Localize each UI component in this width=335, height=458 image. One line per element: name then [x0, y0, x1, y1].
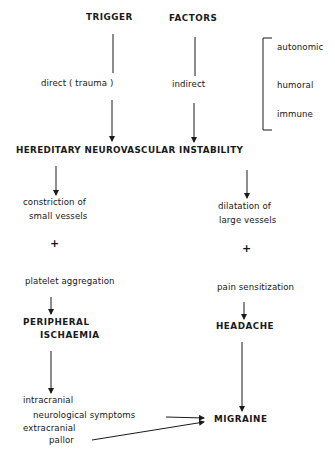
central-node-instability: HEREDITARY NEUROVASCULAR INSTABILITY — [16, 146, 243, 155]
constriction-line2: small vessels — [29, 212, 87, 221]
factor-immune: immune — [277, 110, 313, 119]
arrow-neuro-to-migraine — [166, 417, 204, 418]
dilatation-line1: dilatation of — [218, 202, 271, 211]
factor-autonomic: autonomic — [277, 43, 323, 52]
peripheral-label: PERIPHERAL — [23, 318, 90, 327]
factor-humoral: humoral — [277, 81, 313, 90]
headache-label: HEADACHE — [216, 322, 274, 331]
neurological-symptoms-label: neurological symptoms — [33, 411, 135, 420]
dilatation-line2: large vessels — [219, 216, 276, 225]
pallor-label: pallor — [49, 436, 74, 445]
extracranial-label: extracranial — [23, 424, 76, 433]
left-plus: + — [50, 238, 59, 249]
right-plus: + — [242, 243, 251, 254]
intracranial-label: intracranial — [23, 396, 73, 405]
trigger-label: TRIGGER — [86, 13, 133, 22]
connector-lines — [0, 0, 335, 458]
arrow-pallor-to-migraine — [92, 422, 204, 440]
migraine-label: MIGRAINE — [214, 415, 267, 424]
constriction-line1: constriction of — [23, 198, 86, 207]
pain-sensitization: pain sensitization — [217, 283, 294, 292]
factor-bracket — [263, 38, 272, 130]
factors-label: FACTORS — [169, 14, 217, 23]
indirect-label: indirect — [172, 80, 205, 89]
direct-trauma-label: direct ( trauma ) — [41, 79, 113, 88]
platelet-aggregation: platelet aggregation — [25, 277, 115, 286]
ischaemia-label: ISCHAEMIA — [40, 331, 100, 340]
